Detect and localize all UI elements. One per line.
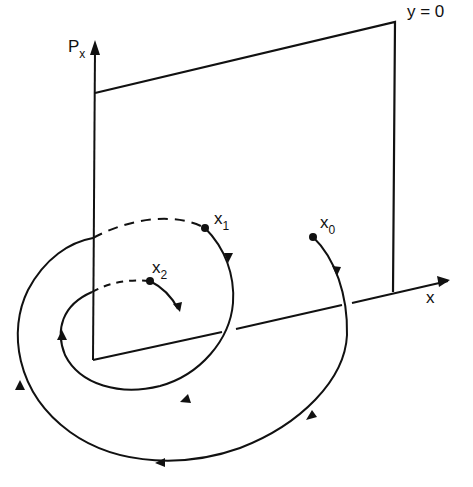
px-axis-label: Px: [68, 37, 85, 61]
arrow-icon: [306, 410, 317, 420]
point-x1: [201, 224, 209, 232]
label-x0: x0: [320, 213, 336, 237]
point-x2: [146, 277, 154, 285]
arrow-icon: [57, 330, 67, 340]
arrow-icon: [180, 394, 191, 403]
label-x2: x2: [152, 258, 168, 282]
x-axis-label: x: [426, 288, 435, 307]
arrow-icon: [15, 380, 25, 390]
label-x1: x1: [214, 209, 230, 233]
point-x0: [309, 233, 317, 241]
x-axis: [93, 276, 450, 360]
arrow-icon: [332, 266, 341, 276]
phase-space-diagram: Px y = 0 x x0 x1 x2: [0, 0, 473, 487]
plane-y0: [95, 22, 395, 292]
plane-label: y = 0: [407, 2, 444, 21]
direction-arrows: [15, 253, 341, 467]
px-axis: [90, 40, 100, 360]
trajectory-x1-to-x2: [61, 228, 234, 390]
px-axis-arrow-icon: [90, 40, 100, 55]
